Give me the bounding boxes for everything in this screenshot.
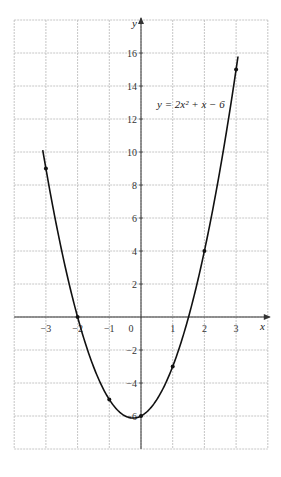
data-point xyxy=(202,249,206,253)
x-tick-label: 1 xyxy=(170,323,175,334)
y-tick-label: 10 xyxy=(127,147,137,158)
x-tick-label: 2 xyxy=(202,323,207,334)
y-axis-label: y xyxy=(131,17,137,29)
x-axis-label: x xyxy=(259,320,265,332)
data-point xyxy=(234,68,238,72)
y-tick-label: 12 xyxy=(127,114,137,125)
x-tick-label: −3 xyxy=(41,323,52,334)
y-tick-label: 4 xyxy=(132,246,137,257)
y-tick-label: 8 xyxy=(132,180,137,191)
data-point xyxy=(139,414,143,418)
y-tick-label: 14 xyxy=(127,81,137,92)
data-point xyxy=(44,167,48,171)
y-tick-label: −6 xyxy=(126,411,137,422)
equation-label: y = 2x² + x − 6 xyxy=(156,98,225,110)
data-point xyxy=(171,365,175,369)
y-tick-label: 6 xyxy=(132,213,137,224)
y-tick-label: −4 xyxy=(126,378,137,389)
y-axis-arrow-icon xyxy=(138,17,144,24)
quadratic-graph: −3−2−10123−6−4−2246810121416 y = 2x² + x… xyxy=(0,0,281,477)
x-tick-label: −1 xyxy=(104,323,115,334)
y-tick-label: −2 xyxy=(126,345,137,356)
y-tick-label: 2 xyxy=(132,279,137,290)
y-tick-label: 16 xyxy=(127,48,137,59)
data-point xyxy=(76,315,80,319)
parabola-curve xyxy=(43,57,238,419)
x-tick-label: 3 xyxy=(234,323,239,334)
axes xyxy=(14,17,271,449)
x-tick-label: 0 xyxy=(129,323,134,334)
data-point xyxy=(107,398,111,402)
